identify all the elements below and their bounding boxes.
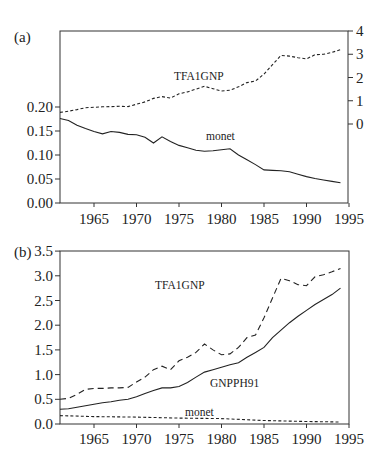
panel-a-label: (a): [14, 29, 31, 46]
panel-a-monet-line: [60, 119, 341, 183]
figure: (a) 0.000.050.100.150.20 01234 196519701…: [0, 0, 386, 471]
panel-b-left-axis: 0.00.51.01.52.02.53.03.5: [34, 243, 60, 432]
y-tick-label: 0.00: [27, 195, 53, 211]
x-tick-label: 1980: [207, 211, 237, 227]
panel-a-right-axis: 01234: [348, 23, 364, 132]
y-tick-label: 0.05: [27, 171, 53, 187]
x-tick-label: 1980: [207, 431, 237, 447]
panel-b: (b) 0.00.51.01.52.02.53.03.5 19651970197…: [14, 243, 364, 447]
panel-a-frame: [60, 31, 348, 203]
x-tick-label: 1995: [334, 211, 364, 227]
x-tick-label: 1965: [79, 431, 109, 447]
panel-b-frame: [60, 251, 349, 424]
y-tick-label: 0.10: [27, 147, 53, 163]
x-tick-label: 1970: [122, 211, 152, 227]
y-right-tick-label: 3: [356, 46, 364, 62]
x-tick-label: 1985: [249, 211, 279, 227]
panel-a-monet-label: monet: [206, 130, 236, 142]
x-tick-label: 1965: [79, 211, 109, 227]
y-tick-label: 0.20: [27, 99, 53, 115]
x-tick-label: 1970: [122, 431, 152, 447]
y-tick-label: 1.0: [34, 367, 53, 383]
x-tick-label: 1990: [292, 211, 322, 227]
panel-a: (a) 0.000.050.100.150.20 01234 196519701…: [14, 23, 364, 227]
panel-b-label: (b): [14, 244, 32, 261]
y-tick-label: 3.5: [34, 243, 53, 259]
x-tick-label: 1990: [292, 431, 322, 447]
x-tick-label: 1975: [164, 431, 194, 447]
panel-b-gnpph91-label: GNPPH91: [210, 377, 259, 389]
y-tick-label: 0.5: [34, 391, 53, 407]
y-right-tick-label: 2: [356, 70, 364, 86]
x-tick-label: 1975: [164, 211, 194, 227]
y-tick-label: 2.5: [34, 293, 53, 309]
y-tick-label: 1.5: [34, 342, 53, 358]
y-tick-label: 0.15: [27, 123, 53, 139]
panel-a-tfa1gnp-label: TFA1GNP: [174, 70, 224, 82]
y-right-tick-label: 4: [356, 23, 364, 39]
panel-b-gnpph91-line: [60, 288, 341, 409]
panel-a-left-axis: 0.000.050.100.150.20: [27, 99, 60, 211]
x-tick-label: 1985: [249, 431, 279, 447]
y-tick-label: 0.0: [34, 416, 53, 432]
y-tick-label: 2.0: [34, 317, 53, 333]
y-right-tick-label: 0: [356, 116, 364, 132]
panel-b-tfa1gnp-label: TFA1GNP: [155, 279, 205, 291]
y-right-tick-label: 1: [356, 93, 364, 109]
x-tick-label: 1995: [334, 431, 364, 447]
panel-b-x-axis: 1965197019751980198519901995: [79, 424, 364, 447]
panel-b-monet-label: monet: [185, 406, 215, 418]
y-tick-label: 3.0: [34, 268, 53, 284]
panel-a-x-axis: 1965197019751980198519901995: [79, 203, 364, 227]
